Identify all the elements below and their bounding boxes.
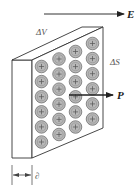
thickness-label: ∂ [35,171,39,181]
volume-label: ΔV [35,27,48,37]
charge [69,106,82,119]
charge [53,53,66,66]
slab-side-face [12,60,32,158]
charge [86,37,99,50]
charge [86,67,99,80]
charge [69,60,82,73]
charge [86,113,99,126]
charge [69,75,82,88]
surface-label: ΔS [109,57,120,67]
charge [53,98,66,111]
slab-diagram: E P ΔV ΔS ∂ [0,0,140,190]
charge [53,113,66,126]
charge [35,136,48,149]
charge [69,121,82,134]
field-label: E [126,8,134,20]
charge [35,60,48,73]
charge [53,128,66,141]
charge [69,91,82,104]
charge [53,83,66,96]
charge [86,98,99,111]
charge [35,121,48,134]
diagram-canvas: E P ΔV ΔS ∂ [0,0,140,190]
charge [69,45,82,58]
charge [86,83,99,96]
charge [35,90,48,103]
charge [35,106,48,119]
charge [53,68,66,81]
charge [35,75,48,88]
polarization-label: P [117,89,124,101]
charge [86,52,99,65]
